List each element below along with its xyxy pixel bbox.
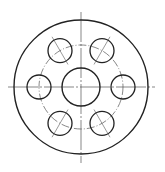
bolt-hole xyxy=(48,110,72,138)
bolt-hole xyxy=(48,37,72,65)
bolt-hole xyxy=(90,110,114,138)
bolt-hole-radial-centerline xyxy=(94,110,110,138)
bolt-hole-radial-centerline xyxy=(52,110,68,138)
flange-drawing xyxy=(0,0,165,172)
bolt-hole-radial-centerline xyxy=(52,37,68,65)
centerlines xyxy=(8,12,155,163)
bolt-hole xyxy=(90,37,114,65)
bolt-hole-radial-centerline xyxy=(94,37,110,65)
